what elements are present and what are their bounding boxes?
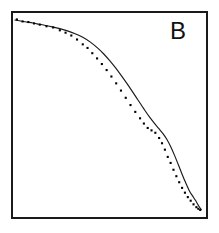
panel-label-b: B [170,18,186,44]
figure-panel: B [0,0,219,233]
